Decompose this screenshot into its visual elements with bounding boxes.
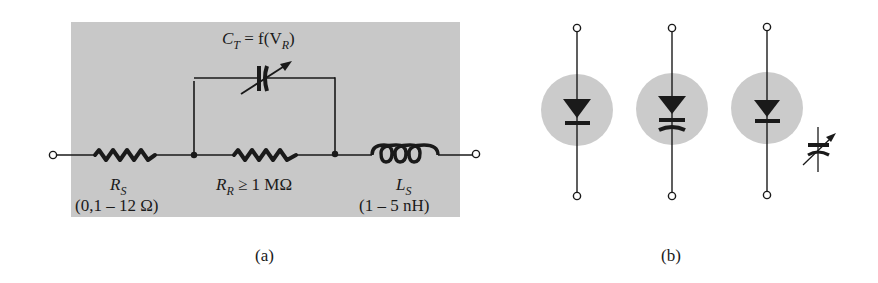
panel-b: (b) (541, 23, 836, 265)
variable-capacitor-small-icon (803, 127, 836, 172)
ls-value: (1 – 5 nH) (359, 196, 429, 215)
rs-value: (0,1 – 12 Ω) (75, 196, 158, 215)
varactor-diode-icon (541, 24, 613, 199)
varactor-diode-icon (731, 23, 803, 198)
terminal-left (49, 151, 56, 158)
varactor-diode-capacitor-icon (636, 24, 708, 199)
panel-a: CT = f(VR) (49, 22, 479, 265)
node-right (332, 151, 338, 157)
terminal-right (472, 150, 479, 157)
node-left (191, 152, 197, 158)
caption-a: (a) (255, 246, 274, 265)
figure-canvas: CT = f(VR) (0, 0, 878, 283)
caption-b: (b) (661, 246, 681, 265)
